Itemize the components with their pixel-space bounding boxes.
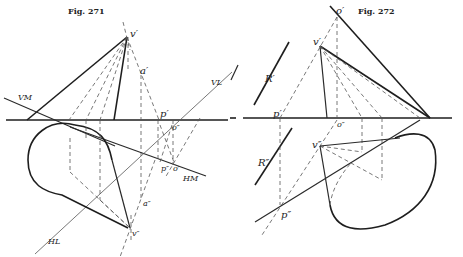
label-p-prime: p′ bbox=[160, 108, 169, 119]
projector-line bbox=[100, 200, 130, 228]
figure-271: Fig. 271 bbox=[4, 6, 232, 257]
label-o-prime: o′ bbox=[173, 164, 180, 173]
label-o-dprime: o″ bbox=[337, 120, 345, 129]
trace-VL-HL bbox=[35, 72, 232, 254]
label-v-dprime: v″ bbox=[312, 139, 322, 150]
label-p-prime: p′ bbox=[273, 108, 282, 119]
label-o-prime: o′ bbox=[336, 5, 345, 16]
figure-272-title: Fig. 272 bbox=[358, 6, 395, 16]
label-R-dprime: R″ bbox=[257, 157, 270, 168]
projector-line bbox=[160, 125, 172, 162]
projector-line bbox=[320, 46, 382, 118]
projector-line bbox=[127, 37, 159, 120]
figure-271-title: Fig. 271 bbox=[68, 6, 105, 16]
cone-contour-left bbox=[27, 37, 127, 120]
label-HL: HL bbox=[47, 237, 60, 246]
label-v-dprime: v″ bbox=[132, 229, 140, 238]
label-VM: VM bbox=[18, 93, 33, 102]
projector-line bbox=[320, 46, 420, 118]
projector-line bbox=[165, 118, 200, 178]
label-p-dprime: p″ bbox=[161, 164, 169, 173]
projector-line bbox=[280, 17, 337, 118]
cone-contour-v-left bbox=[320, 46, 327, 118]
cone-base-ellipse bbox=[330, 134, 436, 229]
projector-line bbox=[100, 37, 127, 120]
tangent-line bbox=[320, 146, 330, 205]
label-o-dprime: o″ bbox=[172, 123, 180, 132]
label-HM: HM bbox=[182, 174, 199, 183]
label-R-prime: R′ bbox=[264, 73, 276, 84]
trace-HM bbox=[70, 127, 206, 176]
projector-line bbox=[320, 146, 362, 152]
cone-contour-h-right bbox=[112, 160, 130, 228]
label-v-prime: v′ bbox=[130, 28, 139, 39]
label-p-dprime: p″ bbox=[281, 209, 291, 220]
label-a-dprime: a″ bbox=[143, 199, 151, 208]
line-stub bbox=[231, 65, 238, 80]
label-VL: VL bbox=[211, 78, 222, 87]
label-v-prime: v′ bbox=[313, 36, 322, 47]
figure-272: Fig. 272 o′ bbox=[230, 5, 452, 235]
trace-VM bbox=[4, 98, 115, 146]
label-a-prime: a′ bbox=[140, 65, 149, 76]
geometry-diagram: Fig. 271 bbox=[0, 0, 463, 257]
